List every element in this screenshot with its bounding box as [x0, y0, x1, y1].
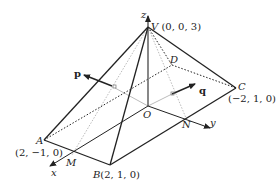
- x-axis: [50, 106, 148, 166]
- vertex-v-label: V (0, 0, 3): [151, 21, 201, 32]
- right-angle-marks: [113, 85, 174, 95]
- vertex-d-label: D: [169, 54, 178, 65]
- vertex-c-label: C: [238, 81, 246, 92]
- y-axis-label: y: [209, 117, 216, 128]
- q-vector-label: q: [199, 85, 206, 96]
- vertex-a-label: A: [35, 135, 43, 146]
- q-vector-arrow: [172, 84, 195, 94]
- p-vector-arrow: [84, 75, 112, 86]
- vertex-b-label: B(2, 1, 0): [92, 169, 140, 180]
- visible-edges: [44, 27, 236, 165]
- point-n-label: N: [181, 119, 192, 130]
- vertex-a-coords: (2, −1, 0): [15, 147, 63, 158]
- origin-label: O: [143, 109, 151, 120]
- point-m-label: M: [65, 157, 77, 168]
- vertex-c-coords: (−2, 1, 0): [228, 93, 276, 104]
- pyramid-diagram: z V (0, 0, 3) D C (−2, 1, 0) O N y A (2,…: [0, 0, 276, 196]
- p-vector-label: p: [74, 68, 81, 79]
- x-axis-label: x: [51, 167, 57, 178]
- z-axis-label: z: [140, 9, 147, 20]
- hidden-edges: [44, 27, 236, 140]
